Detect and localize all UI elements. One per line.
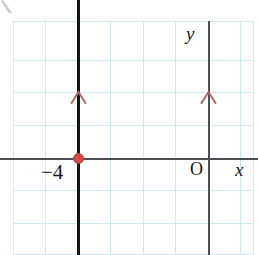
coordinate-graph-figure: y x O −4 bbox=[0, 0, 258, 255]
y-axis-label: y bbox=[186, 24, 194, 43]
pencil-stroke-fragment-icon bbox=[1, 0, 13, 14]
x-axis-label: x bbox=[235, 160, 243, 179]
x-intercept-point bbox=[74, 154, 84, 164]
grid-horizontal-lines bbox=[13, 22, 253, 255]
x-intercept-label: −4 bbox=[41, 162, 63, 183]
origin-label: O bbox=[190, 160, 203, 178]
grid-vertical-lines bbox=[14, 21, 254, 255]
plot-canvas bbox=[0, 0, 258, 255]
